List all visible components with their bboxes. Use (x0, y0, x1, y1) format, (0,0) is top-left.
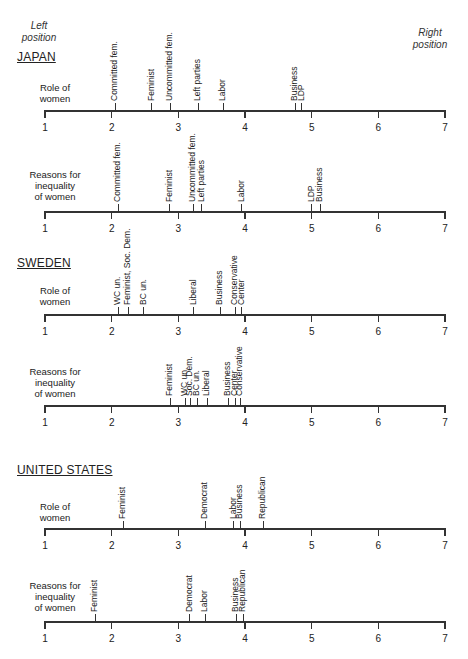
axis-tick (378, 528, 380, 536)
right-label-line: Right (400, 27, 460, 39)
group-label: Labor (200, 590, 209, 612)
tick-label: 1 (38, 540, 52, 551)
position-marker (197, 398, 198, 405)
group-label: LDP (297, 84, 306, 101)
axis-tick (244, 621, 246, 629)
row-label: Role ofwomen (10, 285, 100, 307)
left-position-label: Left position (14, 20, 64, 44)
group-label: Left parties (193, 59, 202, 101)
tick-label: 1 (38, 417, 52, 428)
axis-tick (111, 110, 113, 118)
tick-label: 2 (105, 326, 119, 337)
position-marker (118, 307, 119, 314)
position-marker (198, 103, 199, 110)
position-marker (115, 103, 116, 110)
axis-tick (44, 211, 46, 219)
axis-tick (244, 528, 246, 536)
group-label: WC un. (113, 277, 122, 305)
position-marker (320, 204, 321, 211)
position-marker (193, 307, 194, 314)
group-label: Conservative (235, 346, 244, 396)
position-marker (241, 307, 242, 314)
tick-label: 1 (38, 633, 52, 644)
tick-label: 1 (38, 122, 52, 133)
group-label: Democrat (200, 482, 209, 519)
tick-label: 2 (105, 540, 119, 551)
axis-tick (44, 110, 46, 118)
group-label: Feminist, Soc. Dem. (123, 228, 132, 305)
row-label-line: women (10, 296, 100, 307)
tick-label: 3 (171, 326, 185, 337)
left-label-line: Left (14, 20, 64, 32)
right-position-label: Right position (400, 27, 460, 51)
tick-label: 5 (305, 633, 319, 644)
tick-label: 3 (171, 417, 185, 428)
axis-tick (44, 528, 46, 536)
row-label: Reasons forinequalityof women (10, 580, 100, 613)
axis-tick (378, 110, 380, 118)
tick-label: 7 (438, 417, 452, 428)
tick-label: 3 (171, 122, 185, 133)
group-label: Labor (218, 79, 227, 101)
tick-label: 2 (105, 633, 119, 644)
position-marker (207, 398, 208, 405)
row-label-line: women (10, 93, 100, 104)
position-marker (143, 307, 144, 314)
tick-label: 5 (305, 223, 319, 234)
position-marker (189, 614, 190, 621)
row-label-line: Role of (10, 501, 100, 512)
row-label-line: Reasons for (10, 580, 100, 591)
axis-tick (444, 110, 446, 118)
country-heading: SWEDEN (17, 256, 71, 270)
country-heading: UNITED STATES (17, 463, 113, 477)
position-marker (205, 521, 206, 528)
axis-tick (111, 314, 113, 322)
group-label: BC un. (192, 370, 201, 396)
group-label: Committed fem. (110, 41, 119, 101)
group-label: Liberal (189, 279, 198, 305)
row-label-line: of women (10, 602, 100, 613)
tick-label: 4 (238, 633, 252, 644)
group-label: Center (237, 279, 246, 305)
country-heading: JAPAN (17, 50, 56, 64)
axis-tick (244, 314, 246, 322)
tick-label: 2 (105, 223, 119, 234)
axis-tick (244, 405, 246, 413)
axis-tick (44, 621, 46, 629)
axis-tick (311, 405, 313, 413)
axis-tick (244, 211, 246, 219)
tick-label: 3 (171, 223, 185, 234)
position-marker (123, 521, 124, 528)
group-label: Republican (258, 476, 267, 519)
position-marker (169, 204, 170, 211)
position-marker (223, 103, 224, 110)
position-marker (190, 398, 191, 405)
tick-label: 5 (305, 417, 319, 428)
group-label: Business (235, 485, 244, 520)
tick-label: 5 (305, 326, 319, 337)
group-label: Committed fem. (113, 142, 122, 202)
group-label: Republican (238, 569, 247, 612)
group-label: Feminist (165, 170, 174, 202)
group-label: Business (215, 271, 224, 306)
position-marker (240, 398, 241, 405)
axis-tick (178, 528, 180, 536)
tick-label: 3 (171, 540, 185, 551)
position-marker (301, 103, 302, 110)
tick-label: 7 (438, 326, 452, 337)
position-marker (263, 521, 264, 528)
axis-tick (44, 405, 46, 413)
row-label-line: Role of (10, 285, 100, 296)
position-marker (295, 103, 296, 110)
row-label-line: inequality (10, 377, 100, 388)
tick-label: 4 (238, 122, 252, 133)
tick-label: 6 (371, 417, 385, 428)
tick-label: 6 (371, 122, 385, 133)
tick-label: 5 (305, 122, 319, 133)
axis-tick (378, 405, 380, 413)
axis-tick (311, 528, 313, 536)
group-label: Labor (237, 180, 246, 202)
position-marker (243, 614, 244, 621)
group-label: Business (315, 168, 324, 203)
position-marker (170, 103, 171, 110)
